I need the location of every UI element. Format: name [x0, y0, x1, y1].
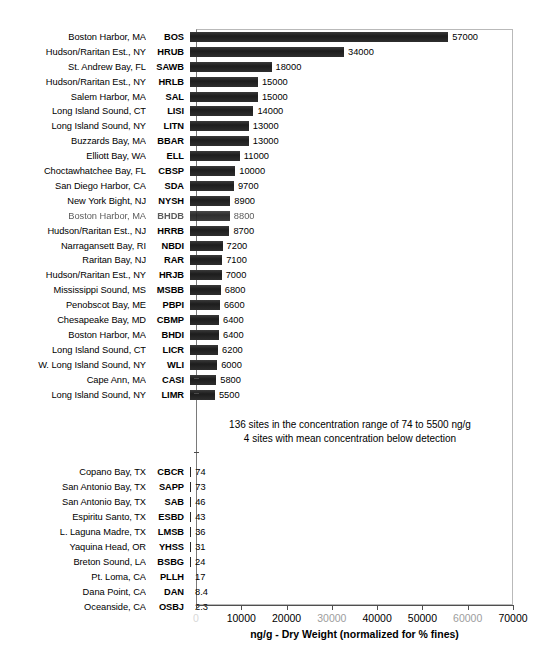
- site-code: SAPP: [146, 482, 190, 492]
- bar-value-label: 17: [195, 572, 205, 582]
- site-code: WLI: [146, 360, 190, 370]
- site-code: SAWB: [146, 62, 190, 72]
- table-row: Boston Harbor, MABOS57000: [0, 30, 541, 45]
- site-code: LICR: [146, 345, 190, 355]
- site-label: Hudson/Raritan Est., NY: [0, 270, 146, 280]
- bar-cell: 8700: [190, 223, 541, 238]
- site-label: Penobscot Bay, ME: [0, 300, 146, 310]
- site-code: LIMR: [146, 390, 190, 400]
- x-tick-mark: [196, 605, 197, 610]
- site-code: CBSP: [146, 166, 190, 176]
- x-tick-mark: [287, 605, 288, 610]
- site-label: Raritan Bay, NJ: [0, 255, 146, 265]
- site-code: DAN: [146, 587, 190, 597]
- table-row: Long Island Sound, NYLITN13000: [0, 119, 541, 134]
- bar-cell: 6800: [190, 283, 541, 298]
- x-tick-mark: [422, 605, 423, 610]
- site-label: Mississippi Sound, MS: [0, 285, 146, 295]
- bar: [190, 360, 217, 370]
- site-label: Yaquina Head, OR: [0, 542, 146, 552]
- bar-value-label: 6400: [223, 315, 244, 325]
- bar-cell: 46: [190, 495, 541, 510]
- site-code: ELL: [146, 151, 190, 161]
- site-label: Oceanside, CA: [0, 602, 146, 612]
- bar: [190, 62, 272, 72]
- table-row: San Antonio Bay, TXSAPP73: [0, 480, 541, 495]
- site-label: San Diego Harbor, CA: [0, 181, 146, 191]
- site-label: Pt. Loma, CA: [0, 572, 146, 582]
- bar: [190, 375, 216, 385]
- site-label: San Antonio Bay, TX: [0, 497, 146, 507]
- bar-value-label: 18000: [276, 62, 302, 72]
- bar-cell: 10000: [190, 164, 541, 179]
- bar-cell: 11000: [190, 149, 541, 164]
- bar-cell: 13000: [190, 119, 541, 134]
- site-code: NYSH: [146, 196, 190, 206]
- table-row: Dana Point, CADAN8.4: [0, 584, 541, 599]
- bar-value-label: 6000: [221, 360, 242, 370]
- bar-value-label: 11000: [244, 151, 269, 161]
- bar: [190, 226, 229, 236]
- site-code: NBDI: [146, 241, 190, 251]
- bar-cell: 74: [190, 465, 541, 480]
- site-label: Long Island Sound, NY: [0, 121, 146, 131]
- table-row: Cape Ann, MACASI5800: [0, 372, 541, 387]
- bar-cell: 6400: [190, 328, 541, 343]
- bar-value-label: 13000: [253, 121, 279, 131]
- bar-cell: 31: [190, 540, 541, 555]
- bar-cell: 15000: [190, 89, 541, 104]
- bar: [190, 136, 249, 146]
- table-row: Long Island Sound, CTLICR6200: [0, 342, 541, 357]
- site-code: HRJB: [146, 270, 190, 280]
- site-label: L. Laguna Madre, TX: [0, 527, 146, 537]
- x-tick-mark: [332, 605, 333, 610]
- table-row: Mississippi Sound, MSMSBB6800: [0, 283, 541, 298]
- bar-cell: 57000: [190, 30, 541, 45]
- site-label: Breton Sound, LA: [0, 557, 146, 567]
- site-label: Copano Bay, TX: [0, 467, 146, 477]
- bar: [190, 330, 219, 340]
- table-row: New York Bight, NJNYSH8900: [0, 193, 541, 208]
- annotation-line-1: 136 sites in the concentration range of …: [200, 418, 500, 432]
- table-row: Breton Sound, LABSBG24: [0, 554, 541, 569]
- bar-value-label: 6400: [223, 330, 244, 340]
- site-code: OSBJ: [146, 602, 190, 612]
- site-code: HRUB: [146, 47, 190, 57]
- bar-value-label: 34000: [348, 47, 374, 57]
- bar: [190, 315, 219, 325]
- bar-value-label: 43: [195, 512, 205, 522]
- site-code: HRLB: [146, 77, 190, 87]
- site-code: CASI: [146, 375, 190, 385]
- bar-cell: 8800: [190, 208, 541, 223]
- table-row: Boston Harbor, MABHDB8800: [0, 208, 541, 223]
- bar-value-label: 5800: [220, 375, 241, 385]
- bar-cell: 43: [190, 510, 541, 525]
- site-label: St. Andrew Bay, FL: [0, 62, 146, 72]
- axis-minor-tick: [194, 378, 199, 379]
- bar-value-label: 14000: [257, 106, 283, 116]
- site-code: PBPI: [146, 300, 190, 310]
- site-code: SDA: [146, 181, 190, 191]
- table-row: Hudson/Raritan Est., NYHRJB7000: [0, 268, 541, 283]
- bar-value-label: 13000: [253, 136, 279, 146]
- bar-cell: 8.4: [190, 584, 541, 599]
- table-row: Hudson/Raritan Est., NJHRRB8700: [0, 223, 541, 238]
- bar-value-label: 74: [195, 467, 205, 477]
- bar: [190, 32, 448, 42]
- bar-cell: 17: [190, 569, 541, 584]
- bar-value-label: 10000: [239, 166, 265, 176]
- table-row: Salem Harbor, MASAL15000: [0, 89, 541, 104]
- bar: [190, 390, 215, 400]
- bar-cell: 7100: [190, 253, 541, 268]
- bar-cell: 14000: [190, 104, 541, 119]
- table-row: Hudson/Raritan Est., NYHRLB15000: [0, 74, 541, 89]
- bar-cell: 36: [190, 525, 541, 540]
- site-label: Chesapeake Bay, MD: [0, 315, 146, 325]
- bar-cell: 5500: [190, 387, 541, 402]
- site-label: W. Long Island Sound, NY: [0, 360, 146, 370]
- table-row: Long Island Sound, CTLISI14000: [0, 104, 541, 119]
- x-tick-label: 70000: [478, 612, 541, 624]
- site-label: Long Island Sound, CT: [0, 106, 146, 116]
- table-row: San Diego Harbor, CASDA9700: [0, 179, 541, 194]
- site-code: SAL: [146, 92, 190, 102]
